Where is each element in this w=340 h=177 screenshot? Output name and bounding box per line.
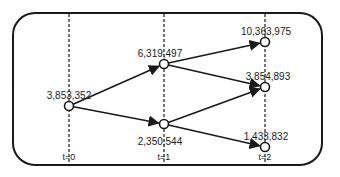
node-value-n0: 3,853,352	[47, 90, 92, 101]
node-value-n1d: 2,350,544	[138, 136, 183, 147]
binomial-tree-diagram: 3,853,3526,319,4972,350,54410,363,9753,8…	[0, 0, 340, 177]
node-value-n2dd: 1,433,832	[244, 131, 289, 142]
node-n2uu	[261, 38, 270, 47]
node-value-n2ud: 3,854,893	[246, 71, 291, 82]
node-n2dd	[261, 143, 270, 152]
time-label-1: t=1	[158, 152, 171, 162]
node-value-n1u: 6,319,497	[138, 48, 183, 59]
time-label-2: t=2	[259, 152, 272, 162]
time-label-0: t=0	[63, 152, 76, 162]
node-n0	[65, 102, 74, 111]
node-n1u	[160, 60, 169, 69]
time-labels: t=0t=1t=2	[63, 152, 272, 162]
node-n2ud	[261, 83, 270, 92]
node-value-n2uu: 10,363,975	[241, 26, 291, 37]
edge-n0-n1d	[73, 107, 158, 123]
node-n1d	[160, 120, 169, 129]
edge-n1d-n2ud	[168, 89, 260, 123]
